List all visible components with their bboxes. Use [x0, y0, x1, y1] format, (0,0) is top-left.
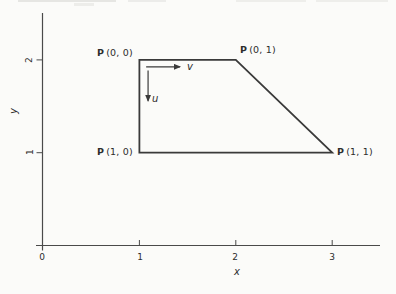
scan-artifact [18, 0, 116, 2]
point-coords: (1, 1) [346, 146, 373, 157]
point-coords: (0, 0) [106, 47, 133, 58]
figure-canvas: P(0, 0) P(0, 1) P(1, 0) P(1, 1) v u 0 1 … [0, 0, 396, 294]
y-axis-label: y [8, 105, 20, 117]
scan-artifact [128, 0, 166, 2]
vector-v-label: v [187, 61, 193, 73]
point-symbol: P [97, 146, 104, 157]
point-symbol: P [240, 44, 247, 55]
point-symbol: P [97, 47, 104, 58]
point-symbol: P [337, 146, 344, 157]
vector-u-label: u [152, 93, 158, 105]
scan-artifact [236, 0, 306, 2]
point-coords: (0, 1) [249, 44, 276, 55]
scan-artifact [74, 3, 94, 6]
x-axis-label: x [231, 266, 243, 278]
point-label-p00: P(0, 0) [97, 47, 133, 59]
scan-artifact [316, 0, 388, 2]
y-tick-label-2: 2 [23, 54, 35, 66]
x-tick-label-2: 2 [229, 251, 241, 263]
x-tick-label-3: 3 [326, 251, 338, 263]
point-label-p11: P(1, 1) [337, 146, 373, 158]
y-tick-label-1: 1 [24, 146, 36, 158]
x-tick-label-1: 1 [134, 251, 146, 263]
point-coords: (1, 0) [106, 146, 133, 157]
x-tick-label-0: 0 [36, 251, 48, 263]
point-label-p10: P(1, 0) [97, 146, 133, 158]
point-label-p01: P(0, 1) [240, 44, 276, 56]
